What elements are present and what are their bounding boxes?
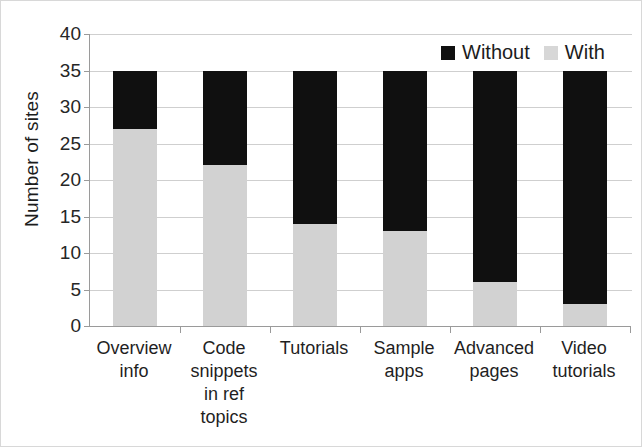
legend-entry[interactable]: With: [544, 41, 605, 64]
x-axis-category-label-line: Video: [539, 337, 629, 360]
bar-segment-without: [383, 71, 427, 232]
legend-label: With: [565, 41, 605, 64]
bar-segment-without: [113, 71, 157, 129]
x-axis-category-label-line: tutorials: [539, 360, 629, 383]
bars-layer: [90, 34, 630, 326]
plot-area: [89, 34, 630, 327]
bar-segment-with: [113, 129, 157, 326]
x-axis-category-label-line: Tutorials: [269, 337, 359, 360]
y-axis-tick-mark: [84, 326, 90, 327]
bar-segment-with: [293, 224, 337, 326]
x-axis-category-label: Videotutorials: [539, 337, 629, 383]
y-axis-tick-label: 10: [60, 242, 81, 264]
y-axis-tick-label: 40: [60, 23, 81, 45]
bar-group: [473, 34, 517, 326]
x-axis-tick-mark: [540, 326, 541, 333]
bar-segment-without: [563, 71, 607, 305]
bar-group: [293, 34, 337, 326]
bar-segment-with: [473, 282, 517, 326]
x-axis-tick-mark: [270, 326, 271, 333]
x-axis-category-label: Advancedpages: [449, 337, 539, 383]
x-axis-category-label-line: snippets: [179, 360, 269, 383]
bar-group: [383, 34, 427, 326]
x-axis-category-label-line: info: [89, 360, 179, 383]
x-axis-category-label-line: Overview: [89, 337, 179, 360]
bar-segment-with: [203, 165, 247, 326]
x-axis-tick-mark: [450, 326, 451, 333]
x-axis-category-label: Overviewinfo: [89, 337, 179, 383]
chart-container: Number of sites 0510152025303540 Overvie…: [0, 0, 642, 447]
y-axis-tick-label: 35: [60, 60, 81, 82]
y-axis-tick-label: 25: [60, 133, 81, 155]
x-axis-category-label: Tutorials: [269, 337, 359, 360]
bar-segment-with: [563, 304, 607, 326]
bar-segment-without: [203, 71, 247, 166]
y-axis-tick-label: 30: [60, 96, 81, 118]
y-axis-tick-label: 15: [60, 206, 81, 228]
legend-swatch-icon: [441, 46, 455, 60]
y-axis-tick-labels: 0510152025303540: [37, 34, 81, 326]
y-axis-tick-label: 5: [70, 279, 81, 301]
x-axis-category-label-line: Sample: [359, 337, 449, 360]
x-axis-tick-mark: [360, 326, 361, 333]
y-axis-tick-label: 20: [60, 169, 81, 191]
x-axis-category-label-line: apps: [359, 360, 449, 383]
x-axis-category-label-line: Advanced: [449, 337, 539, 360]
legend: WithoutWith: [441, 41, 605, 64]
x-axis-tick-mark: [180, 326, 181, 333]
legend-label: Without: [462, 41, 530, 64]
x-axis-category-label-line: in ref: [179, 383, 269, 406]
bar-segment-with: [383, 231, 427, 326]
bar-segment-without: [473, 71, 517, 283]
legend-entry[interactable]: Without: [441, 41, 530, 64]
legend-swatch-icon: [544, 46, 558, 60]
bar-group: [563, 34, 607, 326]
bar-group: [203, 34, 247, 326]
x-axis-category-label: Codesnippetsin reftopics: [179, 337, 269, 429]
bar-segment-without: [293, 71, 337, 224]
x-axis-tick-mark: [630, 326, 631, 333]
bar-group: [113, 34, 157, 326]
x-axis-category-label-line: Code: [179, 337, 269, 360]
x-axis-category-label-line: topics: [179, 406, 269, 429]
y-axis-tick-label: 0: [70, 315, 81, 337]
x-axis-category-labels: OverviewinfoCodesnippetsin reftopicsTuto…: [89, 337, 629, 437]
x-axis-category-label: Sampleapps: [359, 337, 449, 383]
x-axis-category-label-line: pages: [449, 360, 539, 383]
